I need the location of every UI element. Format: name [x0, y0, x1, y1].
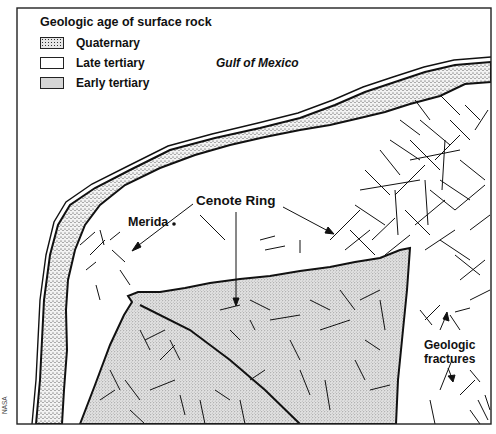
- legend-title: Geologic age of surface rock: [40, 15, 212, 29]
- late-tertiary-swatch: [40, 57, 64, 69]
- legend-item-late-tertiary: Late tertiary: [40, 56, 145, 70]
- fractures-label-line1: Geologic: [424, 338, 475, 352]
- fractures-label-line2: fractures: [424, 352, 475, 366]
- cenote-ring-label: Cenote Ring: [196, 193, 276, 208]
- merida-city-dot: [172, 222, 176, 226]
- early-tertiary-region: [80, 248, 410, 424]
- geologic-fractures-label: Geologic fractures: [424, 338, 475, 366]
- gulf-of-mexico-label: Gulf of Mexico: [216, 56, 299, 70]
- image-credit: NASA: [1, 396, 8, 414]
- legend-label-early-tertiary: Early tertiary: [76, 76, 149, 90]
- quaternary-swatch: [40, 37, 64, 49]
- legend-item-quaternary: Quaternary: [40, 36, 140, 50]
- legend-label-late-tertiary: Late tertiary: [76, 56, 145, 70]
- legend-item-early-tertiary: Early tertiary: [40, 76, 149, 90]
- early-tertiary-swatch: [40, 77, 64, 89]
- legend-label-quaternary: Quaternary: [76, 36, 140, 50]
- merida-label: Merida: [128, 215, 168, 229]
